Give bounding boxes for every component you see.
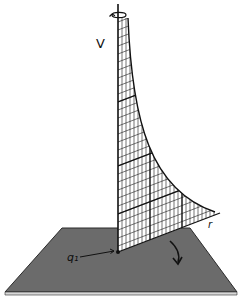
radial-axis-label: r [208,219,212,230]
charge-point [116,250,120,254]
potential-surface [118,0,220,260]
potential-surface-diagram [0,0,240,302]
vertical-axis-label: V [96,36,105,51]
charge-label: q₁ [67,251,78,264]
